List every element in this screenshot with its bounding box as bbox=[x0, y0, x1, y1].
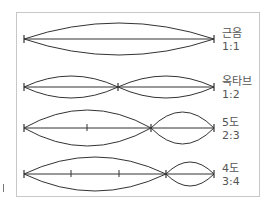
label-fourth: 4도3:4 bbox=[222, 162, 240, 188]
label-octave: 옥타브1:2 bbox=[222, 75, 252, 101]
margin-mark bbox=[3, 184, 4, 192]
label-fifth: 5도2:3 bbox=[222, 116, 240, 142]
label-unison: 근음1:1 bbox=[222, 27, 242, 53]
